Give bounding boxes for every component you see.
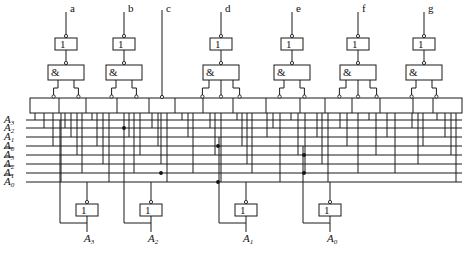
not-gate-symbol: 1: [81, 204, 87, 216]
input-label: A1: [242, 232, 253, 246]
product-term-gate-row: [30, 98, 462, 113]
inversion-bubble: [290, 61, 293, 64]
output-label: d: [225, 2, 231, 14]
output-label: e: [296, 2, 301, 14]
and-gate-symbol: &: [206, 66, 215, 78]
not-gate-symbol: 1: [324, 204, 330, 216]
input-label: A0: [326, 232, 338, 246]
inversion-bubble: [219, 61, 222, 64]
output-label: c: [166, 2, 171, 14]
not-gate: [347, 38, 369, 50]
not-gate-symbol: 1: [118, 38, 124, 50]
junction-dot: [159, 171, 163, 175]
output-label: g: [428, 2, 434, 14]
wire: [74, 80, 78, 95]
wire: [370, 80, 377, 95]
wire: [132, 80, 136, 95]
input-inverters: 1A31A21A11A0: [60, 120, 341, 246]
output-gate-e: 1&e: [274, 2, 310, 98]
not-gate: [319, 204, 341, 216]
wire: [54, 80, 58, 95]
address-lines: [26, 120, 462, 182]
inversion-bubble: [435, 95, 438, 98]
wire: [202, 80, 209, 95]
wire: [339, 80, 346, 95]
inversion-bubble: [77, 95, 80, 98]
not-gate-symbol: 1: [60, 38, 66, 50]
inversion-bubble: [64, 61, 67, 64]
and-gate-symbol: &: [277, 66, 286, 78]
not-gate-symbol: 1: [286, 38, 292, 50]
input-inverter-A3: 1A3: [60, 120, 98, 246]
and-gate-symbol: &: [51, 66, 60, 78]
inversion-bubble: [356, 95, 359, 98]
output-gate-g: 1&g: [406, 2, 442, 98]
not-gate-symbol: 1: [215, 38, 221, 50]
not-gate-symbol: 1: [418, 38, 424, 50]
inversion-bubble: [338, 95, 341, 98]
not-gate-symbol: 1: [352, 38, 358, 50]
not-gate: [281, 38, 303, 50]
inversion-bubble: [52, 95, 55, 98]
output-gate-c: c: [160, 2, 171, 99]
and-gate-symbol: &: [109, 66, 118, 78]
output-label: a: [70, 2, 75, 14]
inversion-bubble: [160, 95, 163, 98]
inversion-bubble: [219, 95, 222, 98]
output-gate-d: 1&d: [201, 2, 241, 98]
decoder-circuit-diagram: 1&a1&bc1&d1&e1&f1&g 1A31A21A11A0 A3A2A1A…: [0, 0, 471, 255]
not-gate: [235, 204, 257, 216]
inversion-bubble: [375, 95, 378, 98]
inversion-bubble: [410, 95, 413, 98]
not-gate: [113, 38, 135, 50]
output-gate-f: 1&f: [338, 2, 378, 98]
output-gate-a: 1&a: [48, 2, 84, 98]
output-gate-b: 1&b: [106, 2, 142, 98]
inversion-bubble: [238, 95, 241, 98]
and-gate-symbol: &: [409, 66, 418, 78]
not-gate-symbol: 1: [240, 204, 246, 216]
row-labels: A3A2A1A0A3A2A1A0: [3, 113, 15, 189]
wire: [432, 80, 436, 95]
input-label: A3: [83, 232, 95, 246]
not-gate: [413, 38, 435, 50]
inversion-bubble: [303, 95, 306, 98]
and-gate-symbol: &: [343, 66, 352, 78]
inversion-bubble: [110, 95, 113, 98]
inversion-bubble: [278, 95, 281, 98]
wire: [280, 80, 284, 95]
wire: [233, 80, 240, 95]
inversion-bubble: [422, 61, 425, 64]
not-gate: [76, 204, 98, 216]
output-gates: 1&a1&bc1&d1&e1&f1&g: [48, 2, 442, 99]
wire: [412, 80, 416, 95]
gate-row-frame: [30, 98, 462, 113]
input-label: A2: [147, 232, 159, 246]
not-gate: [210, 38, 232, 50]
not-gate-symbol: 1: [145, 204, 151, 216]
inversion-bubble: [122, 61, 125, 64]
input-inverter-A1: 1A1: [219, 137, 257, 246]
output-label: b: [128, 2, 134, 14]
output-label: f: [362, 2, 366, 14]
not-gate: [140, 204, 162, 216]
wire: [300, 80, 304, 95]
inversion-bubble: [356, 61, 359, 64]
inversion-bubble: [135, 95, 138, 98]
not-gate: [55, 38, 77, 50]
wire: [112, 80, 116, 95]
inversion-bubble: [201, 95, 204, 98]
